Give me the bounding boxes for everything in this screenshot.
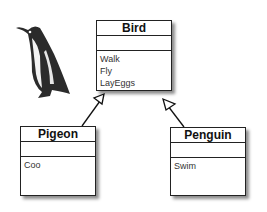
operation: Fly — [100, 65, 168, 77]
class-name: Penguin — [171, 128, 245, 143]
operation: Coo — [24, 159, 92, 171]
attributes-compartment — [171, 143, 245, 158]
attributes-compartment — [21, 142, 95, 157]
operation: LayEggs — [100, 77, 168, 89]
operation: Walk — [100, 53, 168, 65]
operation: Swim — [174, 160, 242, 172]
class-pigeon[interactable]: Pigeon Coo — [20, 126, 96, 196]
operations-compartment: Walk Fly LayEggs — [97, 51, 171, 91]
operations-compartment: Coo — [21, 157, 95, 173]
operations-compartment: Swim — [171, 158, 245, 174]
class-name: Bird — [97, 21, 171, 36]
class-name: Pigeon — [21, 127, 95, 142]
attributes-compartment — [97, 36, 171, 51]
class-penguin[interactable]: Penguin Swim — [170, 127, 246, 196]
class-bird[interactable]: Bird Walk Fly LayEggs — [96, 20, 172, 91]
